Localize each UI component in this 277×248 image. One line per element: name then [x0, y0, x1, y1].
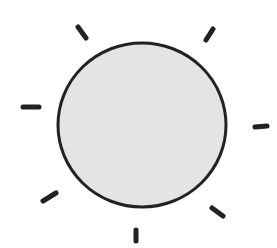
sun-icon: [0, 0, 277, 248]
sun-disc: [58, 43, 226, 207]
ray-right-icon: [255, 126, 267, 127]
sun-illustration: [0, 0, 277, 248]
